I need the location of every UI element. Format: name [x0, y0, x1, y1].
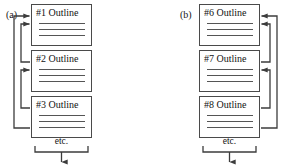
outline-rule [39, 29, 85, 30]
outline-box[interactable]: #6 Outline [199, 4, 260, 46]
panel-a-arrow-inner-1 [21, 24, 30, 62]
outline-box[interactable]: #3 Outline [31, 96, 92, 138]
panel-a-label: (a) [6, 9, 17, 20]
outline-box-title: #8 Outline [204, 99, 247, 111]
outline-rule [207, 127, 253, 128]
outline-box-rules [39, 115, 85, 128]
outline-box[interactable]: #8 Outline [199, 96, 260, 138]
outline-rule [39, 127, 85, 128]
outline-box-title: #6 Outline [204, 7, 247, 19]
figure-outline-sequence-diagram: (a) #1 Outline [0, 0, 291, 168]
outline-rule [39, 69, 85, 70]
outline-rule [39, 121, 85, 122]
outline-rule [39, 81, 85, 82]
panel-a: (a) #1 Outline [0, 0, 145, 168]
panel-b: (b) #6 Outline [146, 0, 291, 168]
outline-box[interactable]: #2 Outline [31, 50, 92, 92]
outline-rule [39, 35, 85, 36]
panel-a-etc-brace [31, 146, 92, 168]
outline-rule [207, 121, 253, 122]
outline-rule [207, 75, 253, 76]
outline-rule [207, 69, 253, 70]
panel-b-label: (b) [180, 9, 192, 20]
panel-b-arrow-inner-1 [261, 24, 270, 62]
outline-box-rules [39, 23, 85, 36]
outline-box-title: #7 Outline [204, 53, 247, 65]
panel-b-arrow-inner-2 [261, 70, 270, 108]
panel-a-arrow-outer [14, 16, 30, 128]
outline-box-title: #1 Outline [36, 7, 79, 19]
outline-box[interactable]: #1 Outline [31, 4, 92, 46]
outline-rule [39, 23, 85, 24]
outline-box-rules [207, 23, 253, 36]
outline-rule [207, 115, 253, 116]
panel-a-arrow-inner-2 [21, 70, 30, 108]
outline-rule [207, 81, 253, 82]
outline-box[interactable]: #7 Outline [199, 50, 260, 92]
outline-rule [207, 29, 253, 30]
outline-rule [39, 115, 85, 116]
outline-box-title: #3 Outline [36, 99, 79, 111]
outline-rule [207, 23, 253, 24]
outline-rule [39, 75, 85, 76]
outline-rule [207, 35, 253, 36]
panel-b-etc-brace [199, 146, 260, 168]
panel-b-arrow-outer [261, 16, 277, 128]
outline-box-rules [39, 69, 85, 82]
outline-box-rules [207, 115, 253, 128]
outline-box-rules [207, 69, 253, 82]
outline-box-title: #2 Outline [36, 53, 79, 65]
